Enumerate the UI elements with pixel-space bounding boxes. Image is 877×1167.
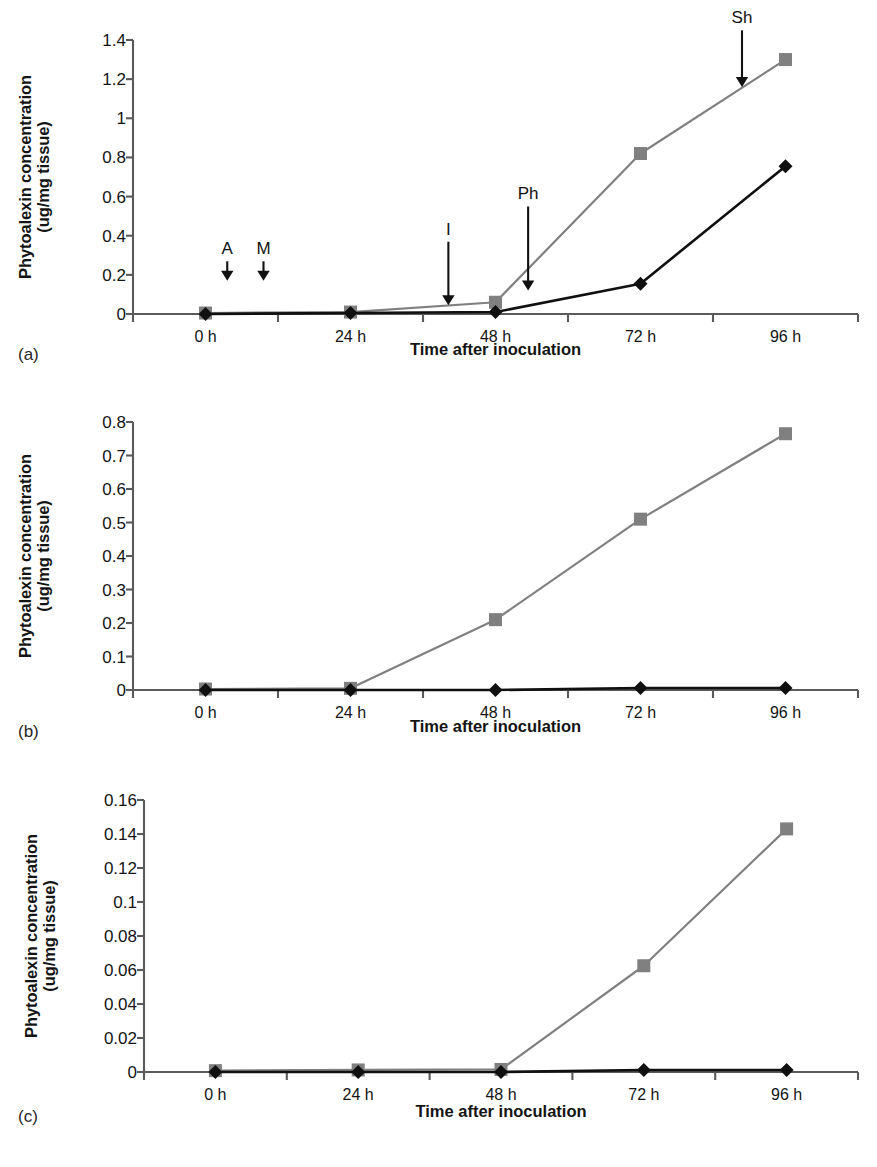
x-tick-label: 0 h bbox=[204, 1086, 226, 1104]
panel-letter-c: (c) bbox=[18, 1107, 38, 1127]
x-tick-label: 96 h bbox=[770, 328, 801, 346]
chart-panel-c: Phytoalexin concentration(ug/mg tissue)0… bbox=[0, 770, 877, 1167]
data-point-square bbox=[489, 613, 502, 626]
x-axis-title: Time after inoculation bbox=[410, 340, 581, 359]
data-point-diamond bbox=[489, 683, 503, 697]
plot-area-a bbox=[0, 0, 877, 390]
data-point-square bbox=[634, 513, 647, 526]
data-point-diamond bbox=[780, 1063, 794, 1077]
series-line-squares bbox=[206, 434, 786, 689]
x-tick-label: 96 h bbox=[771, 1086, 802, 1104]
chart-panel-a: Phytoalexin concentration(ug/mg tissue)0… bbox=[0, 0, 877, 390]
figure-root: Phytoalexin concentration(ug/mg tissue)0… bbox=[0, 0, 877, 1167]
data-point-square bbox=[779, 427, 792, 440]
data-point-square bbox=[779, 53, 792, 66]
x-tick-label: 72 h bbox=[625, 328, 656, 346]
series-line-diamonds bbox=[206, 166, 786, 314]
series-line-squares bbox=[215, 829, 786, 1071]
x-tick-label: 72 h bbox=[628, 1086, 659, 1104]
annotation-arrow-ph bbox=[522, 206, 534, 290]
data-point-diamond bbox=[637, 1063, 651, 1077]
x-tick-label: 72 h bbox=[625, 704, 656, 722]
x-axis-title: Time after inoculation bbox=[410, 717, 581, 736]
x-tick-label: 24 h bbox=[343, 1086, 374, 1104]
data-point-square bbox=[634, 147, 647, 160]
annotation-arrow-i bbox=[442, 242, 454, 305]
panel-letter-a: (a) bbox=[18, 345, 39, 365]
data-point-diamond bbox=[779, 681, 793, 695]
panel-letter-b: (b) bbox=[18, 722, 39, 742]
series-line-squares bbox=[206, 60, 786, 313]
data-point-square bbox=[637, 959, 650, 972]
data-point-square bbox=[780, 822, 793, 835]
x-axis-title: Time after inoculation bbox=[415, 1102, 586, 1121]
x-tick-label: 24 h bbox=[335, 704, 366, 722]
x-tick-label: 24 h bbox=[335, 328, 366, 346]
x-tick-label: 96 h bbox=[770, 704, 801, 722]
annotation-arrow-sh bbox=[736, 30, 748, 87]
data-point-diamond bbox=[634, 681, 648, 695]
x-tick-label: 0 h bbox=[194, 328, 216, 346]
plot-area-b bbox=[0, 390, 877, 770]
annotation-arrow-a bbox=[221, 261, 233, 280]
x-tick-label: 0 h bbox=[194, 704, 216, 722]
chart-panel-b: Phytoalexin concentration(ug/mg tissue)0… bbox=[0, 390, 877, 770]
annotation-arrow-m bbox=[257, 261, 269, 280]
